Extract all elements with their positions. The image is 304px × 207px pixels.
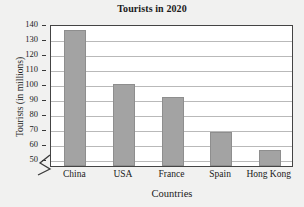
x-category-label: China: [50, 169, 99, 179]
bar: [113, 84, 135, 166]
x-axis-title: Countries: [50, 188, 294, 199]
y-tick-label: 80: [14, 110, 38, 119]
y-tick-mark: [42, 145, 46, 146]
y-tick-label: 70: [14, 125, 38, 134]
y-tick-mark: [42, 130, 46, 131]
gridline: [51, 86, 292, 87]
x-axis-categories: ChinaUSAFranceSpainHong Kong: [50, 169, 293, 185]
y-tick-mark: [42, 100, 46, 101]
y-tick-mark: [42, 25, 46, 26]
bar: [162, 97, 184, 166]
x-category-label: USA: [99, 169, 148, 179]
x-category-label: France: [147, 169, 196, 179]
y-tick-mark: [42, 70, 46, 71]
x-category-label: Hong Kong: [244, 169, 293, 179]
plot-area: [50, 25, 293, 167]
x-category-label: Spain: [196, 169, 245, 179]
y-tick-label: 50: [14, 155, 38, 164]
chart-title: Tourists in 2020: [0, 3, 304, 14]
bar: [64, 30, 86, 166]
y-tick-label: 130: [14, 35, 38, 44]
gridline: [51, 56, 292, 57]
gridline: [51, 71, 292, 72]
y-tick-label: 90: [14, 95, 38, 104]
y-tick-mark: [42, 115, 46, 116]
y-tick-mark: [42, 85, 46, 86]
bar: [210, 132, 232, 166]
bar: [259, 150, 281, 166]
y-tick-label: 60: [14, 140, 38, 149]
gridline: [51, 41, 292, 42]
y-tick-mark: [42, 40, 46, 41]
y-tick-label: 110: [14, 65, 38, 74]
y-tick-label: 120: [14, 50, 38, 59]
y-tick-label: 100: [14, 80, 38, 89]
y-tick-mark: [42, 55, 46, 56]
bar-chart-figure: Tourists in 2020 Tourists (in millions) …: [0, 0, 304, 207]
y-tick-label: 140: [14, 20, 38, 29]
y-axis-ticks: 5060708090100110120130140: [0, 25, 46, 167]
